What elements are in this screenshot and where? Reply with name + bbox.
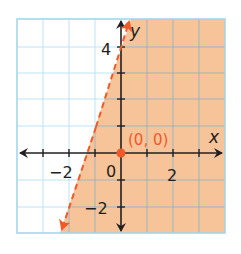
tick-label-x-0: 0 [106,162,116,181]
tick-label-x-neg2: −2 [49,163,73,182]
tick-label-x-2: 2 [167,166,177,185]
y-axis-label: y [129,21,141,41]
tick-label-y-neg2: −2 [84,199,108,218]
inequality-graph: (0, 0) x y −2 0 2 4 −2 [0,0,241,254]
test-point [117,149,126,158]
point-label: (0, 0) [128,131,168,149]
tick-label-y-4: 4 [101,40,111,59]
x-axis-label: x [208,127,220,147]
